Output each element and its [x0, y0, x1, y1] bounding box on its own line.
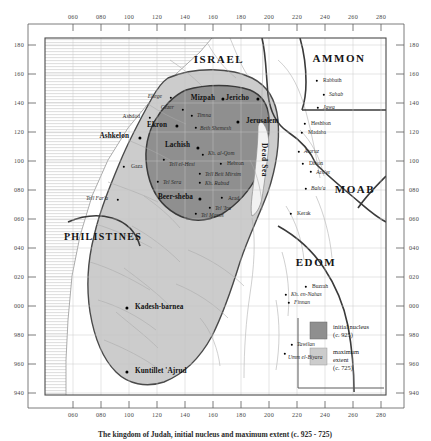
legend-swatch-initial-nucleus	[310, 322, 327, 339]
legend-swatch-maximum-extent	[310, 348, 327, 365]
historical-map-figure: 060 080 100 120 140 160 180 200 220 240 …	[0, 0, 431, 441]
map-canvas	[0, 0, 431, 441]
